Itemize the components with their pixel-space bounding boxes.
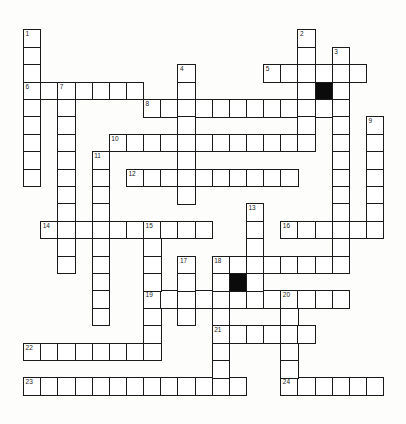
crossword-cell[interactable] (40, 343, 58, 362)
crossword-cell[interactable] (195, 134, 213, 153)
crossword-cell[interactable] (195, 221, 213, 240)
crossword-cell[interactable] (332, 99, 350, 118)
crossword-cell[interactable] (280, 325, 298, 344)
crossword-cell[interactable] (160, 290, 178, 309)
crossword-cell[interactable] (349, 377, 367, 396)
crossword-cell[interactable] (57, 169, 75, 188)
crossword-cell[interactable] (315, 221, 333, 240)
crossword-cell[interactable] (280, 360, 298, 379)
crossword-cell[interactable] (332, 82, 350, 101)
crossword-cell[interactable] (212, 134, 230, 153)
crossword-cell[interactable] (23, 47, 41, 66)
crossword-cell[interactable] (280, 64, 298, 83)
crossword-cell[interactable] (92, 238, 110, 257)
crossword-cell[interactable]: 5 (263, 64, 281, 83)
crossword-cell[interactable] (366, 169, 384, 188)
crossword-cell[interactable] (143, 256, 161, 275)
crossword-cell[interactable] (57, 116, 75, 135)
crossword-cell[interactable] (212, 99, 230, 118)
crossword-cell[interactable] (212, 290, 230, 309)
crossword-cell[interactable] (57, 221, 75, 240)
crossword-cell[interactable] (246, 256, 264, 275)
crossword-cell[interactable] (332, 256, 350, 275)
crossword-cell[interactable] (366, 186, 384, 205)
crossword-cell[interactable]: 13 (246, 203, 264, 222)
crossword-cell[interactable] (23, 151, 41, 170)
crossword-cell[interactable] (40, 82, 58, 101)
crossword-cell[interactable]: 9 (366, 116, 384, 135)
crossword-cell[interactable] (280, 256, 298, 275)
crossword-cell[interactable]: 8 (143, 99, 161, 118)
crossword-cell[interactable] (177, 151, 195, 170)
crossword-cell[interactable] (212, 360, 230, 379)
crossword-cell[interactable] (92, 221, 110, 240)
crossword-cell[interactable] (143, 273, 161, 292)
crossword-cell[interactable] (212, 308, 230, 327)
crossword-cell[interactable] (297, 116, 315, 135)
crossword-cell[interactable] (297, 221, 315, 240)
crossword-cell[interactable] (143, 308, 161, 327)
crossword-cell[interactable] (126, 377, 144, 396)
crossword-cell[interactable] (315, 99, 333, 118)
crossword-cell[interactable] (143, 343, 161, 362)
crossword-cell[interactable] (160, 134, 178, 153)
crossword-cell[interactable] (75, 221, 93, 240)
crossword-cell[interactable] (332, 64, 350, 83)
crossword-cell[interactable] (92, 256, 110, 275)
crossword-cell[interactable] (92, 290, 110, 309)
crossword-cell[interactable] (143, 325, 161, 344)
crossword-cell[interactable] (57, 134, 75, 153)
crossword-cell[interactable] (297, 82, 315, 101)
crossword-cell[interactable] (177, 221, 195, 240)
crossword-cell[interactable] (195, 99, 213, 118)
crossword-cell[interactable] (57, 377, 75, 396)
crossword-cell[interactable] (366, 377, 384, 396)
crossword-cell[interactable] (297, 47, 315, 66)
crossword-cell[interactable] (263, 134, 281, 153)
crossword-cell[interactable]: 1 (23, 29, 41, 48)
crossword-cell[interactable] (75, 343, 93, 362)
crossword-cell[interactable] (23, 116, 41, 135)
crossword-cell[interactable] (160, 169, 178, 188)
crossword-cell[interactable]: 4 (177, 64, 195, 83)
crossword-cell[interactable] (126, 134, 144, 153)
crossword-cell[interactable] (109, 343, 127, 362)
crossword-cell[interactable] (160, 99, 178, 118)
crossword-cell[interactable] (75, 82, 93, 101)
crossword-cell[interactable] (229, 290, 247, 309)
crossword-cell[interactable] (229, 134, 247, 153)
crossword-cell[interactable] (23, 64, 41, 83)
crossword-cell[interactable] (177, 186, 195, 205)
crossword-cell[interactable] (57, 343, 75, 362)
crossword-cell[interactable] (143, 169, 161, 188)
crossword-cell[interactable] (263, 290, 281, 309)
crossword-cell[interactable] (160, 377, 178, 396)
crossword-cell[interactable] (297, 325, 315, 344)
crossword-cell[interactable] (280, 134, 298, 153)
crossword-cell[interactable] (246, 99, 264, 118)
crossword-cell[interactable] (92, 169, 110, 188)
crossword-cell[interactable] (315, 377, 333, 396)
crossword-cell[interactable] (92, 308, 110, 327)
crossword-cell[interactable] (212, 377, 230, 396)
crossword-cell[interactable] (297, 99, 315, 118)
crossword-cell[interactable] (177, 273, 195, 292)
crossword-cell[interactable] (246, 221, 264, 240)
crossword-cell[interactable]: 3 (332, 47, 350, 66)
crossword-cell[interactable] (177, 169, 195, 188)
crossword-cell[interactable] (177, 82, 195, 101)
crossword-cell[interactable] (92, 186, 110, 205)
crossword-cell[interactable] (195, 290, 213, 309)
crossword-cell[interactable] (23, 99, 41, 118)
crossword-cell[interactable] (57, 99, 75, 118)
crossword-cell[interactable] (57, 238, 75, 257)
crossword-cell[interactable] (246, 134, 264, 153)
crossword-cell[interactable] (57, 256, 75, 275)
crossword-cell[interactable] (280, 308, 298, 327)
crossword-cell[interactable] (332, 186, 350, 205)
crossword-cell[interactable]: 10 (109, 134, 127, 153)
crossword-cell[interactable] (366, 203, 384, 222)
crossword-cell[interactable] (246, 290, 264, 309)
crossword-cell[interactable] (349, 64, 367, 83)
crossword-cell[interactable] (160, 221, 178, 240)
